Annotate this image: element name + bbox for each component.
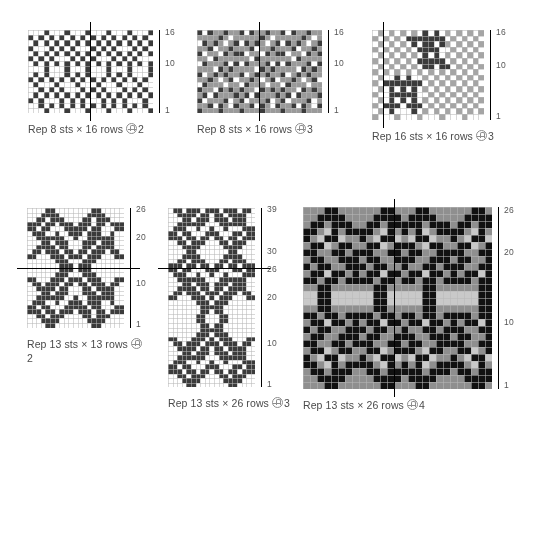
repeat-line-vertical bbox=[259, 22, 260, 121]
row-label: 10 bbox=[267, 339, 277, 348]
chart-canvas-5 bbox=[168, 208, 255, 387]
colour-count: 3 bbox=[284, 397, 290, 409]
row-label: 26 bbox=[136, 205, 146, 214]
colour-count: 3 bbox=[307, 123, 313, 135]
chart-caption: Rep 13 sts × 26 rows 4 bbox=[303, 398, 425, 412]
row-label: 16 bbox=[496, 28, 506, 37]
chart-block-6: 2620101Rep 13 sts × 26 rows 4 bbox=[303, 207, 492, 389]
chart-block-3: 16101Rep 16 sts × 16 rows 3 bbox=[372, 30, 484, 120]
yarn-ball-icon bbox=[295, 123, 306, 134]
row-label: 26 bbox=[267, 265, 277, 274]
chart-block-2: 16101Rep 8 sts × 16 rows 3 bbox=[197, 30, 322, 113]
chart-axis-line bbox=[159, 30, 160, 113]
yarn-ball-icon bbox=[126, 123, 137, 134]
row-label: 26 bbox=[504, 206, 514, 215]
row-label: 1 bbox=[334, 106, 339, 115]
chart-caption-text: Rep 16 sts × 16 rows bbox=[372, 130, 473, 142]
chart-canvas-6 bbox=[303, 207, 492, 389]
chart-caption-text: Rep 13 sts × 26 rows bbox=[303, 399, 404, 411]
chart-caption-text: Rep 13 sts × 13 rows bbox=[27, 338, 128, 350]
row-label: 16 bbox=[165, 28, 175, 37]
repeat-line-horizontal bbox=[158, 268, 271, 269]
chart-caption-text: Rep 13 sts × 26 rows bbox=[168, 397, 269, 409]
repeat-line-vertical bbox=[394, 199, 395, 397]
yarn-ball-icon bbox=[272, 397, 283, 408]
row-label: 20 bbox=[267, 293, 277, 302]
charts-sheet: 16101Rep 8 sts × 16 rows 2 16101Rep 8 st… bbox=[0, 0, 535, 543]
colour-count: 3 bbox=[488, 130, 494, 142]
chart-block-4: 2620101Rep 13 sts × 13 rows 2 bbox=[27, 208, 124, 328]
row-label: 20 bbox=[136, 233, 146, 242]
yarn-ball-icon bbox=[131, 338, 142, 349]
row-label: 1 bbox=[504, 381, 509, 390]
chart-grid-6 bbox=[303, 207, 492, 389]
chart-block-1: 16101Rep 8 sts × 16 rows 2 bbox=[28, 30, 153, 113]
row-label: 1 bbox=[136, 320, 141, 329]
chart-axis-line bbox=[328, 30, 329, 113]
repeat-line-vertical bbox=[90, 22, 91, 121]
chart-grid-3 bbox=[372, 30, 484, 120]
chart-caption-text: Rep 8 sts × 16 rows bbox=[197, 123, 292, 135]
colour-count: 2 bbox=[27, 352, 33, 364]
row-label: 10 bbox=[334, 59, 344, 68]
chart-caption: Rep 16 sts × 16 rows 3 bbox=[372, 129, 494, 143]
colour-count: 4 bbox=[419, 399, 425, 411]
chart-axis-line bbox=[498, 207, 499, 389]
row-label: 20 bbox=[504, 248, 514, 257]
yarn-ball-icon bbox=[407, 399, 418, 410]
yarn-ball-icon bbox=[476, 130, 487, 141]
row-label: 10 bbox=[504, 318, 514, 327]
repeat-line-horizontal bbox=[17, 268, 140, 269]
chart-caption: Rep 13 sts × 13 rows 2 bbox=[27, 337, 147, 365]
row-label: 1 bbox=[267, 380, 272, 389]
row-label: 1 bbox=[165, 106, 170, 115]
row-label: 39 bbox=[267, 205, 277, 214]
chart-caption: Rep 13 sts × 26 rows 3 bbox=[168, 396, 290, 410]
chart-axis-line bbox=[490, 30, 491, 120]
chart-grid-5 bbox=[168, 208, 255, 387]
chart-axis-line bbox=[261, 208, 262, 387]
repeat-line-vertical bbox=[383, 22, 384, 128]
chart-caption-text: Rep 8 sts × 16 rows bbox=[28, 123, 123, 135]
chart-caption: Rep 8 sts × 16 rows 2 bbox=[28, 122, 144, 136]
row-label: 10 bbox=[496, 61, 506, 70]
chart-block-5: 39302620101Rep 13 sts × 26 rows 3 bbox=[168, 208, 255, 387]
row-label: 30 bbox=[267, 247, 277, 256]
chart-canvas-3 bbox=[372, 30, 484, 120]
chart-caption: Rep 8 sts × 16 rows 3 bbox=[197, 122, 313, 136]
row-label: 16 bbox=[334, 28, 344, 37]
colour-count: 2 bbox=[138, 123, 144, 135]
row-label: 10 bbox=[165, 59, 175, 68]
row-label: 10 bbox=[136, 279, 146, 288]
row-label: 1 bbox=[496, 112, 501, 121]
